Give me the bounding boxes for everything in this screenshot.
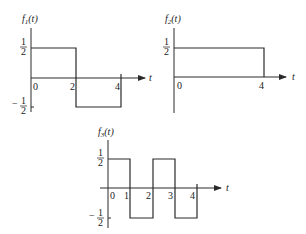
f2-xlabel: t: [292, 71, 295, 82]
f3-xtick-0: 0: [110, 190, 115, 201]
f3-ylabel: f3(t): [98, 126, 114, 139]
svg-text:2: 2: [164, 46, 169, 57]
f3-xtick-3: 3: [168, 190, 173, 201]
f2-ytick-half: 1 2: [163, 36, 170, 57]
f3-ytick-half: 1 2: [97, 147, 104, 168]
f2-xtick-0: 0: [177, 80, 182, 91]
f1-xtick-0: 0: [33, 81, 38, 92]
svg-text:−: −: [12, 98, 18, 109]
f3-xtick-2: 2: [146, 190, 151, 201]
f1-ytick-half: 1 2: [20, 36, 27, 57]
waveform-diagram: f1(t) t 1 2 − 1 2 0 2 4 f2(t) t: [0, 0, 306, 234]
f3-xtick-4: 4: [190, 190, 195, 201]
f1-xtick-4: 4: [115, 81, 120, 92]
svg-text:−: −: [89, 210, 95, 221]
plot-f1: f1(t) t 1 2 − 1 2 0 2 4: [12, 13, 152, 116]
f1-ylabel: f1(t): [22, 13, 38, 26]
plot-f3: f3(t) t 1 2 − 1 2 0 1 2 3 4: [89, 126, 229, 228]
svg-text:2: 2: [21, 105, 26, 116]
plot-f2: f2(t) t 1 2 0 4: [163, 13, 295, 113]
svg-text:2: 2: [21, 46, 26, 57]
f1-xtick-2: 2: [70, 81, 75, 92]
f3-xlabel: t: [226, 182, 229, 193]
f2-ylabel: f2(t): [165, 13, 181, 26]
f2-waveform: [174, 48, 264, 77]
svg-text:2: 2: [98, 157, 103, 168]
f2-xtick-4: 4: [259, 80, 264, 91]
f3-xtick-1: 1: [124, 190, 129, 201]
f1-xlabel: t: [149, 72, 152, 83]
svg-text:2: 2: [98, 217, 103, 228]
